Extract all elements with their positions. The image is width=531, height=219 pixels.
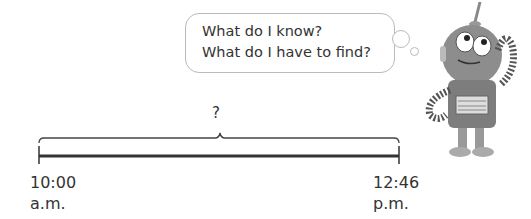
- number-line-diagram: [0, 0, 531, 219]
- end-time: 12:46: [373, 172, 419, 193]
- brace: [39, 133, 399, 143]
- end-period: p.m.: [373, 193, 419, 214]
- start-period: a.m.: [30, 193, 76, 214]
- robot-thinking-icon: [429, 2, 513, 157]
- start-time-label: 10:00 a.m.: [30, 172, 76, 214]
- start-time: 10:00: [30, 172, 76, 193]
- unknown-duration-label: ?: [212, 104, 220, 122]
- end-time-label: 12:46 p.m.: [373, 172, 419, 214]
